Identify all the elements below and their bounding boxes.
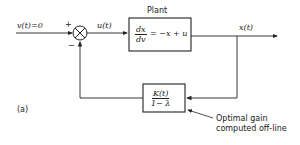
annotation-line1: Optimal gain <box>216 114 267 123</box>
plant-eq-rhs: = −x + u <box>150 29 187 38</box>
control-label: u(t) <box>97 21 112 30</box>
plus-sign: + <box>65 20 72 29</box>
plant-derivative: dx dv <box>135 25 147 44</box>
panel-label: (a) <box>17 105 28 114</box>
gain-block-fraction: K(t) 1− λ <box>151 89 170 108</box>
minus-sign: − <box>68 41 75 50</box>
plant-eq-den: dv <box>136 35 146 44</box>
plant-title: Plant <box>147 6 167 15</box>
gain-num: K(t) <box>152 89 169 99</box>
gain-den: 1− λ <box>151 99 170 108</box>
output-label: x(t) <box>239 23 253 32</box>
annotation-line2: computed off-line <box>216 124 287 133</box>
input-label: v(t)=0 <box>17 21 43 30</box>
plant-eq-num: dx <box>135 25 147 35</box>
